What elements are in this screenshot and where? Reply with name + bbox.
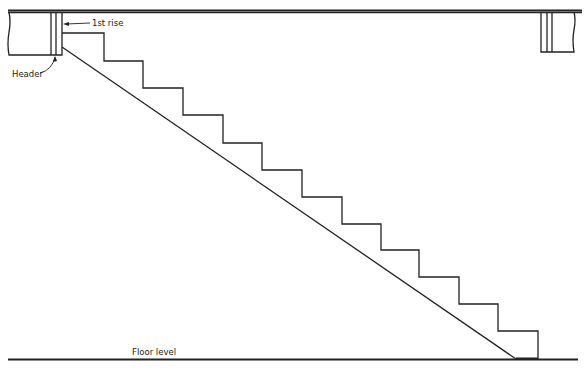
stair-diagram: 1st rise Header Floor level [0, 0, 588, 373]
first-rise-label: 1st rise [92, 18, 123, 28]
floor-level-label: Floor level [132, 347, 176, 357]
header-label: Header [12, 69, 43, 79]
right-joist-block [541, 12, 575, 52]
left-joist-block [8, 12, 62, 55]
stair-steps [62, 33, 538, 359]
stringer-line [62, 47, 516, 359]
first-rise-leader [63, 22, 90, 26]
upper-floor [8, 11, 582, 13]
